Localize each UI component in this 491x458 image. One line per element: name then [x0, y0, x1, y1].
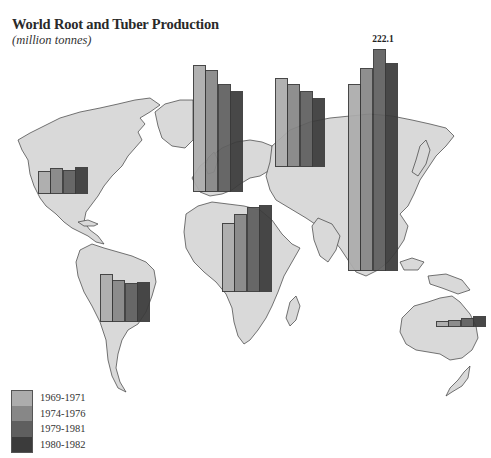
legend-swatch [11, 437, 33, 453]
legend-swatch [11, 421, 33, 437]
bar [312, 98, 325, 167]
legend-label: 1980-1982 [40, 439, 86, 450]
legend-label: 1974-1976 [40, 408, 86, 419]
bar [218, 84, 231, 192]
bar [125, 283, 138, 322]
bar [112, 280, 125, 322]
legend-swatch [11, 406, 33, 422]
bar [247, 207, 260, 292]
bar [234, 214, 247, 292]
bar [259, 205, 272, 292]
bar [137, 282, 150, 322]
bar [50, 168, 63, 194]
bar [461, 318, 474, 327]
bar [287, 84, 300, 167]
bar-chart-overlay [0, 0, 491, 458]
bar [275, 78, 288, 167]
bar [75, 167, 88, 194]
bar [100, 274, 113, 322]
bar [436, 321, 449, 327]
bar [205, 70, 218, 192]
bar [385, 63, 398, 271]
bar [448, 320, 461, 327]
bar [63, 170, 76, 194]
bar [193, 65, 206, 192]
legend-swatch [11, 390, 33, 406]
bar [473, 316, 486, 327]
bar [222, 223, 235, 292]
max-value-label: 222.1 [372, 34, 393, 44]
legend-label: 1969-1971 [40, 392, 86, 403]
bar [360, 68, 373, 271]
legend-label: 1979-1981 [40, 423, 86, 434]
bar [230, 91, 243, 192]
bar [373, 49, 386, 271]
bar [38, 171, 51, 194]
bar [300, 91, 313, 167]
bar [348, 84, 361, 271]
